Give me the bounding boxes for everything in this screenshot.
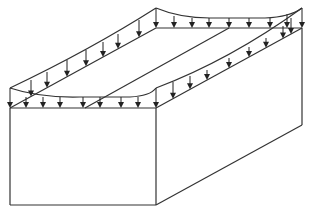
arrowhead-icon bbox=[80, 102, 86, 108]
arrowhead-icon bbox=[118, 102, 124, 108]
back-load-curve bbox=[156, 8, 302, 18]
arrowhead-icon bbox=[153, 22, 159, 28]
arrowhead-icon bbox=[57, 102, 63, 108]
arrowhead-icon bbox=[189, 22, 195, 28]
box-outline bbox=[10, 28, 302, 205]
top-mid-line bbox=[85, 28, 229, 108]
diagram-canvas bbox=[0, 0, 311, 211]
arrowhead-icon bbox=[135, 102, 141, 108]
arrowhead-icon bbox=[23, 102, 29, 108]
arrowhead-icon bbox=[284, 22, 290, 28]
arrowhead-icon bbox=[206, 22, 212, 28]
load-arrows bbox=[7, 8, 305, 108]
bottom-right-edge bbox=[156, 125, 302, 205]
box-load-diagram bbox=[0, 0, 311, 211]
arrowhead-icon bbox=[299, 22, 305, 28]
arrowhead-icon bbox=[40, 102, 46, 108]
arrowhead-icon bbox=[171, 22, 177, 28]
arrowhead-icon bbox=[246, 22, 252, 28]
top-left-edge bbox=[10, 28, 156, 108]
arrowhead-icon bbox=[267, 22, 273, 28]
left-load-curve bbox=[10, 8, 156, 88]
arrowhead-icon bbox=[226, 22, 232, 28]
arrowhead-icon bbox=[97, 102, 103, 108]
